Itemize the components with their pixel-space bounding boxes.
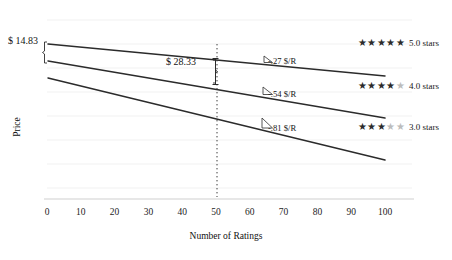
series-line-4-stars <box>48 61 385 118</box>
x-tick-label: 20 <box>110 208 120 218</box>
legend-label-5-stars: 5.0 stars <box>409 38 439 48</box>
x-tick-label: 0 <box>45 208 50 218</box>
x-tick-label: 80 <box>313 208 323 218</box>
annotation-gap-at-zero-label: $ 14.83 <box>8 36 38 46</box>
x-tick-label: 60 <box>245 208 255 218</box>
series-line-3-stars <box>48 78 385 160</box>
x-tick-label: 10 <box>76 208 86 218</box>
slope-label-5-stars: -.27 $/R <box>268 57 296 66</box>
slope-label-4-stars: -.54 $/R <box>268 90 296 99</box>
star-rating-icon-5: ★★★★★ <box>358 38 405 48</box>
x-tick-label: 90 <box>346 208 356 218</box>
legend-label-3-stars: 3.0 stars <box>409 122 439 132</box>
slope-label-3-stars: -.81 $/R <box>268 124 296 133</box>
x-tick-label: 40 <box>177 208 187 218</box>
x-tick-label: 70 <box>279 208 289 218</box>
brace-gap-at-zero <box>43 42 48 63</box>
x-tick-label: 100 <box>378 208 392 218</box>
x-tick-label: 50 <box>211 208 221 218</box>
legend-item-5-stars: ★★★★★ 5.0 stars <box>358 38 439 48</box>
legend-item-4-stars: ★★★★★ 4.0 stars <box>358 81 439 91</box>
star-rating-icon-3: ★★★★★ <box>358 122 405 132</box>
x-tick-label: 30 <box>144 208 154 218</box>
price-vs-ratings-chart: $ 14.83 $ 28.33 -.27 $/R -.54 $/R -.81 $… <box>0 0 452 260</box>
annotation-gap-at-fifty-label: $ 28.33 <box>166 57 196 67</box>
legend-item-3-stars: ★★★★★ 3.0 stars <box>358 122 439 132</box>
legend-label-4-stars: 4.0 stars <box>409 81 439 91</box>
y-axis-title: Price <box>13 117 23 137</box>
star-rating-icon-4: ★★★★★ <box>358 81 405 91</box>
x-axis-title: Number of Ratings <box>190 232 263 242</box>
